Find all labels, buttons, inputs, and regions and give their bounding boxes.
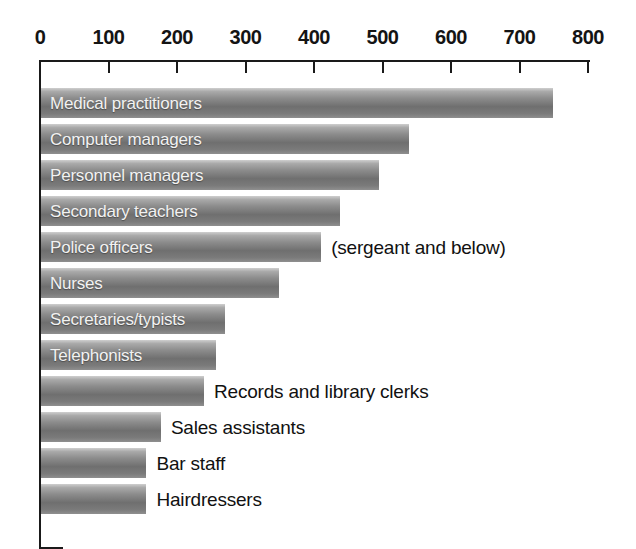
bar: [41, 484, 146, 514]
bar-row: Personnel managers: [41, 160, 379, 190]
bar-label: Police officers: [50, 232, 153, 262]
x-axis-tick-mark: [450, 60, 452, 73]
x-axis-tick-mark: [176, 60, 178, 73]
x-axis-tick-mark: [39, 60, 41, 73]
bar-row: [41, 448, 146, 478]
bar-row: Medical practitioners: [41, 88, 553, 118]
bar-label: Bar staff: [156, 448, 225, 478]
x-axis-tick-mark: [382, 60, 384, 73]
x-axis-tick-mark: [587, 60, 589, 73]
bar-row: Nurses: [41, 268, 279, 298]
x-axis-tick-mark: [245, 60, 247, 73]
bar-label: Hairdressers: [156, 484, 261, 514]
bar-row: [41, 484, 146, 514]
bar-row: [41, 376, 204, 406]
bar-row: Police officers: [41, 232, 321, 262]
bar-label: Sales assistants: [171, 412, 305, 442]
bar-label: Records and library clerks: [214, 376, 428, 406]
bar-label: Telephonists: [50, 340, 142, 370]
bar-row: Computer managers: [41, 124, 409, 154]
bar-label: Personnel managers: [50, 160, 203, 190]
bar-row: Secretaries/typists: [41, 304, 225, 334]
bar-row: [41, 412, 161, 442]
x-axis-tick-mark: [519, 60, 521, 73]
bar-label: Secondary teachers: [50, 196, 198, 226]
bar-row: Secondary teachers: [41, 196, 340, 226]
bar-label: Nurses: [50, 268, 103, 298]
bar-label: Secretaries/typists: [50, 304, 185, 334]
bar: [41, 412, 161, 442]
bar-row: Telephonists: [41, 340, 216, 370]
x-axis-tick-mark: [108, 60, 110, 73]
bar-label: Medical practitioners: [50, 88, 202, 118]
x-axis-tick-mark: [313, 60, 315, 73]
bar: [41, 376, 204, 406]
bar: [41, 448, 146, 478]
bar-annotation: (sergeant and below): [331, 232, 506, 262]
bar-label: Computer managers: [50, 124, 202, 154]
